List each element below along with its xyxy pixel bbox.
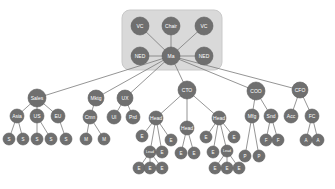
node-label: E [192,151,195,156]
node-a2: A [312,134,324,146]
node-cfo: CFO [292,82,308,98]
node-label: CTO [182,87,193,93]
node-eu: EU [51,109,65,123]
node-label: Asia [12,113,22,119]
node-label: Head [150,115,162,121]
node-label: E [179,151,182,156]
node-m2: M [98,133,110,145]
node-label: P [257,154,260,159]
node-label: Mktg [91,95,102,101]
node-label: Head [181,125,193,131]
node-e14: E [233,162,245,174]
node-label: Sales [31,95,44,101]
node-label: Ma [168,53,175,59]
node-s4: S [45,133,57,145]
node-label: Head [213,115,225,121]
node-label: UX [122,95,130,101]
node-ui: UI [107,110,121,124]
node-label: E [211,150,214,155]
node-label: F [277,138,280,143]
org-chart-diagram: VCChairVCNEDMaNEDSalesMktgUXCTOCOOCFOAsi… [0,0,335,189]
node-ma: Ma [162,47,180,65]
node-ned2: NED [195,47,213,65]
node-label: S [35,137,38,142]
node-label: E [169,138,172,143]
node-prd: Prd [126,110,140,124]
node-label: E [232,135,235,140]
node-label: M [84,137,88,142]
node-label: Lead [223,149,231,153]
node-label: F [265,138,268,143]
node-label: Lead [146,150,154,154]
node-label: NED [135,53,146,59]
node-label: M [102,137,106,142]
node-label: FC [309,113,316,119]
node-label: E [204,135,207,140]
node-label: CFO [295,87,306,93]
node-label: S [49,137,52,142]
node-s2: S [17,133,29,145]
node-e1: E [136,130,148,142]
node-vc2: VC [195,17,213,35]
node-e7: E [175,147,187,159]
node-e4: E [133,162,145,174]
node-ux: UX [117,90,133,106]
node-e11: E [228,131,240,143]
node-f1: F [260,134,272,146]
node-s5: S [60,133,72,145]
node-e9: E [200,131,212,143]
node-cmn: Cmn [83,110,97,124]
node-coo: COO [247,82,265,100]
node-e2: E [156,146,168,158]
node-label: S [64,137,67,142]
node-p2: P [253,150,265,162]
node-label: VC [137,23,144,29]
node-label: E [137,166,140,171]
node-label: EU [55,113,62,119]
node-head3: Head [212,111,226,125]
node-e6: E [156,162,168,174]
edge-ma-sales [37,56,171,98]
node-label: E [160,150,163,155]
node-head1: Head [149,111,163,125]
node-label: Chair [165,23,177,29]
node-label: E [213,166,216,171]
node-label: S [7,137,10,142]
node-m1: M [80,133,92,145]
node-a1: A [300,134,312,146]
node-label: E [140,134,143,139]
node-snd: Snd [264,109,278,123]
node-label: E [237,166,240,171]
node-f2: F [272,134,284,146]
node-acc: Acc [284,109,298,123]
node-mktg: Mktg [88,90,104,106]
node-vc1: VC [131,17,149,35]
node-label: Snd [267,113,276,119]
node-e8: E [188,147,200,159]
node-chair: Chair [162,17,180,35]
node-label: UI [112,114,117,120]
node-p1: P [239,150,251,162]
node-e13: E [221,162,233,174]
node-label: S [21,137,24,142]
node-us: US [30,109,44,123]
node-e12: E [209,162,221,174]
node-label: US [34,113,42,119]
node-label: Acc [287,113,296,119]
node-label: VC [201,23,208,29]
node-e3: E [165,134,177,146]
node-label: COO [250,88,262,94]
node-s1: S [3,133,15,145]
node-ned1: NED [131,47,149,65]
node-label: P [243,154,246,159]
node-cto: CTO [178,81,196,99]
node-s3: S [31,133,43,145]
node-lead1: Lead [144,146,156,158]
node-asia: Asia [10,109,24,123]
node-mfg: Mfg [245,109,259,123]
node-label: A [316,138,319,143]
node-head2: Head [180,121,194,135]
node-label: Prd [129,114,137,120]
node-lead2: Lead [221,145,233,157]
node-label: Cmn [85,114,96,120]
